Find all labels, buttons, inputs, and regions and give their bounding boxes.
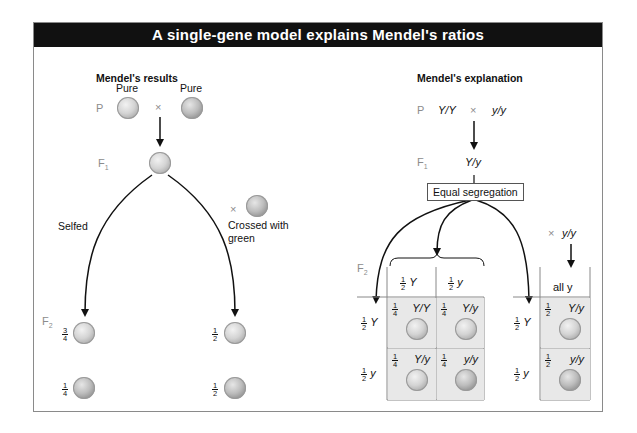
branch-label-selfed: Selfed (58, 220, 88, 232)
ratio-one-quarter: 14 (62, 380, 68, 398)
punnett-row-header-Y: 12 Y (361, 316, 378, 331)
testcross-green-pea-icon (246, 195, 268, 217)
ratio-three-quarters: 34 (62, 325, 68, 343)
testcross-cell-Yy: 12 Y/y (541, 298, 590, 348)
testcross-cell-yy: 12 y/y (541, 349, 590, 400)
parent-label-pure-1: Pure (116, 82, 138, 94)
yellow-pea-icon (117, 97, 139, 119)
equal-segregation-box: Equal segregation (427, 183, 524, 201)
generation-label-f2-right: F2 (357, 262, 368, 276)
generation-label-p-right: P (417, 104, 424, 116)
punnett-col-header-y: 12 y (448, 276, 463, 291)
testcross-row-header-y: 12 y (514, 367, 529, 382)
punnett-col-header-Y: 12 Y (400, 276, 417, 291)
green-pea-icon (455, 369, 477, 391)
testcross-cross-symbol: × (548, 227, 554, 239)
f2-green-pea-icon (73, 377, 95, 399)
testcross-genotype: y/y (562, 227, 576, 239)
f1-genotype: Y/y (465, 156, 481, 168)
green-pea-icon (559, 369, 581, 391)
green-pea-icon (181, 97, 203, 119)
cross-symbol-right: × (470, 104, 476, 116)
punnett-cell-YY: 14 Y/Y (388, 298, 436, 348)
cross-symbol: × (155, 101, 161, 113)
generation-label-f1: F1 (98, 157, 109, 171)
yellow-pea-icon (406, 369, 428, 391)
ratio-half-yellow: 12 (212, 325, 218, 343)
punnett-cell-yy: 14 y/y (437, 349, 484, 400)
yellow-pea-icon (559, 318, 581, 340)
testcross-col-header: all y (553, 281, 573, 293)
ratio-half-green: 12 (212, 380, 218, 398)
parent-label-pure-2: Pure (180, 82, 202, 94)
f1-yellow-pea-icon (149, 152, 171, 174)
generation-label-f2: F2 (42, 315, 53, 329)
testcross-green-result-pea-icon (224, 377, 246, 399)
testcross-symbol: × (230, 203, 236, 215)
f2-yellow-pea-icon (73, 322, 95, 344)
punnett-row-header-y: 12 y (361, 367, 376, 382)
generation-label-f1-right: F1 (417, 156, 428, 170)
punnett-cell-Yy-top: 14 Y/y (437, 298, 484, 348)
testcross-row-header-Y: 12 Y (514, 316, 531, 331)
testcross-yellow-pea-icon (224, 322, 246, 344)
right-panel-heading: Mendel's explanation (417, 72, 523, 84)
yellow-pea-icon (455, 318, 477, 340)
yellow-pea-icon (406, 318, 428, 340)
branch-label-crossed-with-green: Crossed withgreen (228, 219, 289, 245)
generation-label-p: P (96, 102, 103, 114)
punnett-cell-Yy-bottom: 14 Y/y (388, 349, 436, 400)
parent-genotype-YY: Y/Y (438, 104, 456, 116)
parent-genotype-yy: y/y (492, 104, 506, 116)
